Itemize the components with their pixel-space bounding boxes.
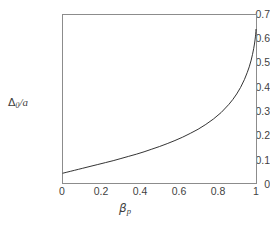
data-curve-line: [63, 29, 256, 173]
plot-area: [62, 14, 257, 184]
x-tick-label-0.4: 0.4: [120, 186, 160, 197]
x-tick-label-0: 0: [42, 186, 82, 197]
figure-container: 0.7 0.6 0.5 0.4 0.3 0.2 0.1 0 0 0.2 0.4 …: [0, 0, 270, 229]
data-curve-svg: [63, 15, 256, 183]
beta-symbol: β: [119, 201, 127, 215]
x-tick-label-1: 1: [236, 186, 270, 197]
x-axis-title: βp: [0, 202, 270, 218]
a-symbol: a: [23, 96, 29, 108]
x-tick-label-0.6: 0.6: [159, 186, 199, 197]
beta-subscript-p: p: [127, 206, 131, 216]
delta-symbol: Δ: [8, 96, 16, 109]
x-tick-label-0.8: 0.8: [198, 186, 238, 197]
x-tick-label-0.2: 0.2: [81, 186, 121, 197]
y-axis-title: Δ0/a: [8, 96, 28, 112]
